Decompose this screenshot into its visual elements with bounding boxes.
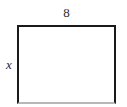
left-side-length-label: x: [2, 58, 16, 71]
top-side-length-label: 8: [0, 6, 127, 19]
geometry-figure: 8 x: [0, 0, 127, 107]
rectangle-shape: [17, 25, 116, 104]
